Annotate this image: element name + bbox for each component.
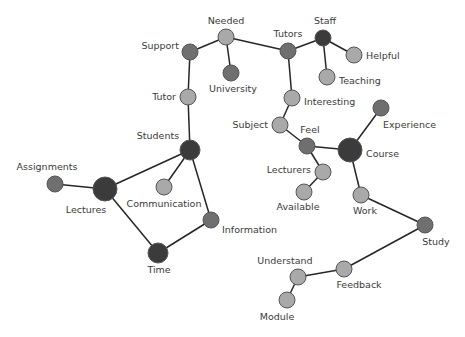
node-label-tutor: Tutor — [151, 91, 176, 102]
node-label-tutors: Tutors — [273, 28, 303, 39]
edge-students-information — [190, 150, 211, 220]
node-helpful — [346, 47, 362, 63]
node-feel — [299, 138, 315, 154]
node-label-teaching: Teaching — [338, 75, 381, 86]
node-students — [180, 140, 200, 160]
node-label-work: Work — [353, 205, 378, 216]
node-lectures — [93, 177, 117, 201]
node-teaching — [319, 69, 335, 85]
node-label-understand: Understand — [257, 255, 312, 266]
node-course — [338, 138, 362, 162]
node-tutor — [180, 89, 196, 105]
labels-layer: NeededSupportUniversityTutorsStaffHelpfu… — [17, 15, 451, 322]
node-label-course: Course — [366, 148, 399, 159]
node-label-needed: Needed — [208, 15, 245, 26]
node-label-feedback: Feedback — [336, 279, 382, 290]
node-understand — [290, 269, 306, 285]
node-label-information: Information — [222, 224, 277, 235]
node-label-communication: Communication — [127, 198, 202, 209]
node-support — [182, 44, 198, 60]
node-label-subject: Subject — [232, 119, 268, 130]
node-feedback — [336, 261, 352, 277]
node-time — [148, 243, 168, 263]
node-subject — [272, 117, 288, 133]
node-label-assignments: Assignments — [17, 161, 78, 172]
node-work — [353, 187, 369, 203]
node-label-study: Study — [422, 236, 450, 247]
node-module — [279, 292, 295, 308]
node-tutors — [280, 43, 296, 59]
edge-needed-tutors — [226, 37, 288, 51]
node-information — [203, 212, 219, 228]
nodes-layer — [47, 29, 433, 308]
node-university — [223, 65, 239, 81]
node-label-support: Support — [141, 40, 179, 51]
node-label-time: Time — [146, 264, 170, 275]
node-label-module: Module — [260, 311, 295, 322]
node-staff — [315, 30, 331, 46]
edge-students-lectures — [105, 150, 190, 189]
concept-network-diagram: NeededSupportUniversityTutorsStaffHelpfu… — [0, 0, 465, 337]
node-label-helpful: Helpful — [366, 50, 400, 61]
node-lecturers — [315, 164, 331, 180]
node-interesting — [284, 90, 300, 106]
node-label-feel: Feel — [300, 124, 319, 135]
node-label-interesting: Interesting — [304, 96, 355, 107]
node-label-experience: Experience — [383, 119, 436, 130]
node-assignments — [47, 176, 63, 192]
node-communication — [156, 179, 172, 195]
node-experience — [373, 100, 389, 116]
node-label-available: Available — [276, 201, 319, 212]
node-label-lecturers: Lecturers — [267, 164, 311, 175]
node-study — [417, 217, 433, 233]
edge-study-feedback — [344, 225, 425, 269]
node-label-students: Students — [137, 130, 179, 141]
node-label-lectures: Lectures — [66, 204, 106, 215]
node-needed — [218, 29, 234, 45]
node-label-university: University — [209, 83, 257, 94]
node-label-staff: Staff — [314, 15, 337, 26]
node-available — [296, 184, 312, 200]
